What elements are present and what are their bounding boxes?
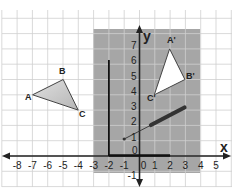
y-tick-label: 0	[132, 145, 138, 156]
x-tick-label: -2	[104, 160, 113, 171]
x-tick-label: 5	[213, 160, 219, 171]
y-tick-label: 3	[131, 101, 137, 112]
label-c: C	[79, 109, 86, 119]
x-tick-label: 4	[198, 160, 204, 171]
x-tick-label: -4	[74, 160, 83, 171]
y-tick-label: 6	[131, 55, 137, 66]
x-tick-label: 0	[141, 160, 147, 171]
y-tick-label: 4	[131, 86, 137, 97]
x-tick-label: -6	[43, 160, 52, 171]
x-tick-label: -8	[13, 160, 22, 171]
y-tick-label: 5	[131, 71, 137, 82]
x-tick-label: -7	[28, 160, 37, 171]
y-tick-label: 1	[131, 132, 137, 143]
y-tick-label: 2	[131, 116, 137, 127]
label-b: B	[59, 66, 66, 76]
x-axis-label: x	[220, 139, 228, 155]
y-tick-label: 7	[131, 40, 137, 51]
y-axis-label: y	[143, 28, 151, 44]
label-a-prime: A'	[167, 35, 176, 45]
label-c-prime: C'	[147, 93, 156, 103]
coordinate-grid-diagram: A B C A' B' C' -8-7-6-5-4-3-2-1012345 -1…	[0, 0, 234, 190]
x-tick-label: 2	[167, 160, 173, 171]
x-tick-label: 3	[183, 160, 189, 171]
y-tick-label: -1	[128, 170, 137, 181]
x-tick-label: -5	[59, 160, 68, 171]
x-tick-label: -3	[89, 160, 98, 171]
x-tick-label: 1	[152, 160, 158, 171]
label-b-prime: B'	[186, 71, 195, 81]
label-a: A	[25, 92, 32, 102]
